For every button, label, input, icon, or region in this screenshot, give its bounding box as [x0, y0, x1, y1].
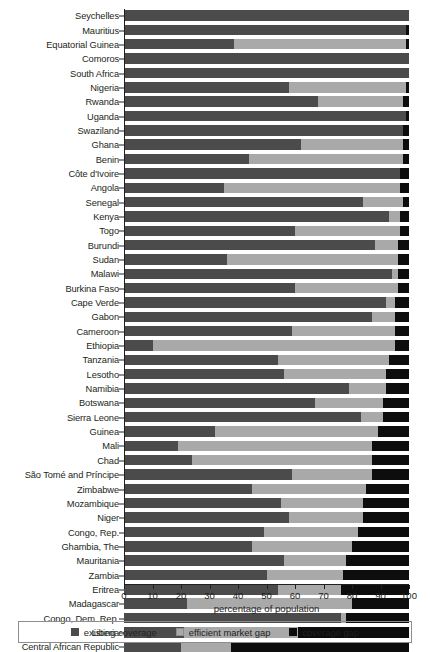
segment-coverage-gap — [403, 96, 409, 106]
segment-efficient-market-gap — [363, 197, 403, 207]
segment-existing-coverage — [124, 441, 178, 451]
segment-coverage-gap — [400, 211, 409, 221]
segment-coverage-gap — [346, 555, 409, 565]
segment-coverage-gap — [231, 642, 409, 652]
segment-coverage-gap — [400, 183, 409, 193]
segment-existing-coverage — [124, 68, 409, 78]
chart-row: Guinea — [0, 425, 430, 439]
category-label: Rwanda — [85, 97, 119, 107]
stacked-bar — [124, 197, 409, 207]
chart-row: Mali — [0, 439, 430, 453]
segment-coverage-gap — [400, 168, 409, 178]
segment-coverage-gap — [406, 111, 409, 121]
category-label: Angola — [91, 183, 119, 193]
category-label: Swaziland — [78, 126, 119, 136]
stacked-bar — [124, 340, 409, 350]
segment-efficient-market-gap — [289, 82, 406, 92]
segment-existing-coverage — [124, 642, 181, 652]
segment-existing-coverage — [124, 326, 292, 336]
x-tick-label: 100 — [401, 590, 417, 601]
category-label: Equatorial Guinea — [46, 40, 119, 50]
segment-existing-coverage — [124, 340, 153, 350]
segment-existing-coverage — [124, 125, 403, 135]
segment-coverage-gap — [406, 82, 409, 92]
segment-coverage-gap — [389, 355, 409, 365]
chart-row: Ghana — [0, 138, 430, 152]
stacked-bar — [124, 355, 409, 365]
chart-row: Rwanda — [0, 95, 430, 109]
stacked-bar — [124, 111, 409, 121]
chart-row: Nigeria — [0, 81, 430, 95]
x-tick-label: 80 — [347, 590, 358, 601]
category-label: Seychelles — [75, 11, 119, 21]
segment-existing-coverage — [124, 498, 281, 508]
stacked-bar — [124, 469, 409, 479]
stacked-bar — [124, 53, 409, 63]
segment-efficient-market-gap — [178, 441, 372, 451]
category-label: Burundi — [88, 241, 119, 251]
category-label: Chad — [97, 456, 119, 466]
segment-efficient-market-gap — [372, 312, 395, 322]
segment-efficient-market-gap — [318, 96, 404, 106]
legend-swatch-gap — [289, 628, 297, 636]
segment-efficient-market-gap — [295, 283, 398, 293]
segment-coverage-gap — [398, 283, 409, 293]
x-tick — [324, 585, 325, 589]
segment-efficient-market-gap — [153, 340, 395, 350]
segment-existing-coverage — [124, 197, 363, 207]
category-label: Benin — [96, 155, 119, 165]
segment-efficient-market-gap — [301, 139, 404, 149]
segment-coverage-gap — [395, 297, 409, 307]
stacked-bar — [124, 541, 409, 551]
segment-existing-coverage — [124, 154, 249, 164]
category-label: Congo, Rep. — [68, 528, 119, 538]
segment-existing-coverage — [124, 570, 267, 580]
chart-row: Ghambia, The — [0, 540, 430, 554]
chart-row: Togo — [0, 224, 430, 238]
legend-swatch-existing — [71, 628, 79, 636]
chart-row: Cape Verde — [0, 296, 430, 310]
segment-existing-coverage — [124, 211, 389, 221]
segment-efficient-market-gap — [264, 527, 358, 537]
chart-row: South Africa — [0, 66, 430, 80]
legend-item: existing coverage — [71, 627, 157, 638]
segment-existing-coverage — [124, 297, 386, 307]
segment-existing-coverage — [124, 398, 315, 408]
stacked-bar — [124, 10, 409, 20]
stacked-bar — [124, 183, 409, 193]
segment-existing-coverage — [124, 383, 349, 393]
segment-efficient-market-gap — [278, 355, 389, 365]
category-label: São Tomé and Príncipe — [25, 470, 119, 480]
chart-row: Senegal — [0, 195, 430, 209]
segment-coverage-gap — [366, 484, 409, 494]
category-label: Central African Republic — [22, 642, 119, 652]
chart-row: Mozambique — [0, 497, 430, 511]
segment-efficient-market-gap — [267, 570, 344, 580]
chart-row: Lesotho — [0, 368, 430, 382]
segment-existing-coverage — [124, 269, 392, 279]
segment-coverage-gap — [383, 412, 409, 422]
chart-row: Comoros — [0, 52, 430, 66]
chart-row: Mauritania — [0, 554, 430, 568]
segment-coverage-gap — [386, 383, 409, 393]
stacked-bar — [124, 555, 409, 565]
category-label: Tanzania — [83, 355, 119, 365]
x-axis-title: percentage of population — [124, 603, 409, 614]
plot-area: SeychellesMauritiusEquatorial GuineaComo… — [0, 9, 430, 584]
category-label: Namibia — [86, 384, 119, 394]
segment-coverage-gap — [372, 469, 409, 479]
x-tick-label: 90 — [375, 590, 386, 601]
segment-existing-coverage — [124, 426, 215, 436]
category-label: Ghana — [92, 140, 119, 150]
x-tick — [124, 585, 125, 589]
x-tick-label: 0 — [121, 590, 126, 601]
category-label: Sudan — [93, 255, 119, 265]
stacked-bar — [124, 25, 409, 35]
category-label: Mauritius — [82, 26, 119, 36]
category-label: Ethiopia — [86, 341, 119, 351]
chart-row: Côte d'Ivoire — [0, 167, 430, 181]
x-tick — [238, 585, 239, 589]
segment-existing-coverage — [124, 412, 361, 422]
segment-existing-coverage — [124, 53, 409, 63]
stacked-bar — [124, 527, 409, 537]
